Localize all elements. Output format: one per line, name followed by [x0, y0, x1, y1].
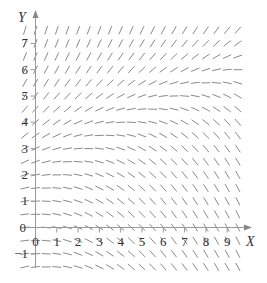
- slope-segment: [203, 132, 209, 138]
- slope-segment: [54, 79, 59, 86]
- slope-segment: [236, 250, 240, 258]
- slope-segment: [192, 120, 199, 125]
- slope-segment: [191, 95, 200, 97]
- slope-segment: [234, 94, 242, 99]
- slope-segment: [84, 135, 93, 136]
- slope-segment: [85, 107, 93, 112]
- slope-segment: [63, 187, 72, 189]
- slope-segment: [74, 200, 82, 203]
- slope-segment: [45, 39, 48, 47]
- slope-segment: [150, 250, 156, 257]
- slope-segment: [180, 96, 189, 97]
- slope-segment: [202, 54, 209, 59]
- slope-segment: [119, 39, 123, 47]
- slope-segment: [203, 171, 208, 178]
- slope-segment: [225, 210, 229, 218]
- slope-segment: [150, 237, 156, 244]
- slope-segment: [128, 185, 135, 191]
- slope-segment: [86, 66, 91, 73]
- slope-segment: [84, 174, 93, 177]
- slope-segment: [160, 146, 167, 151]
- slope-segment: [224, 132, 230, 139]
- slope-segment: [87, 39, 91, 47]
- slope-segment: [171, 211, 176, 218]
- slope-segment: [225, 158, 230, 166]
- slope-segment: [66, 26, 69, 34]
- slope-segment: [128, 211, 135, 217]
- slope-segment: [192, 54, 199, 60]
- slope-segment: [149, 81, 157, 85]
- slope-segment: [160, 53, 166, 60]
- slope-segment: [74, 161, 83, 162]
- slope-segment: [96, 93, 103, 98]
- slope-segment: [106, 238, 113, 243]
- slope-segment: [160, 250, 166, 257]
- slope-segment: [117, 211, 124, 217]
- slope-segment: [214, 210, 218, 218]
- slope-segment: [42, 214, 51, 215]
- slope-segment: [84, 161, 93, 163]
- slope-segment: [45, 26, 48, 35]
- slope-segment: [150, 211, 156, 218]
- slope-segment: [77, 26, 80, 34]
- slope-segment: [127, 147, 135, 151]
- slope-segment: [148, 95, 157, 97]
- slope-segment: [95, 148, 104, 149]
- y-tick-label: −1: [14, 246, 28, 261]
- slope-segment: [118, 53, 123, 61]
- slope-segment: [20, 214, 29, 215]
- slope-segment: [42, 174, 51, 175]
- slope-segment: [151, 26, 155, 34]
- slope-segment: [235, 132, 240, 139]
- slope-segment: [204, 250, 209, 258]
- slope-segment: [42, 240, 51, 241]
- slope-segment: [170, 120, 178, 124]
- slope-segment: [204, 210, 209, 218]
- slope-segment: [127, 134, 136, 136]
- slope-segment: [23, 52, 26, 60]
- slope-segment: [116, 108, 125, 110]
- slope-segment: [74, 266, 83, 269]
- slope-segment: [214, 263, 219, 271]
- slope-segment: [128, 172, 135, 177]
- slope-segment: [202, 95, 211, 98]
- slope-segment: [85, 199, 93, 203]
- slope-segment: [182, 263, 187, 270]
- slope-segment: [74, 187, 83, 190]
- x-axis-arrow-icon: [244, 225, 252, 231]
- slope-segment: [150, 198, 156, 205]
- slope-segment: [86, 79, 92, 86]
- slope-segment: [52, 147, 61, 150]
- slope-segment: [160, 159, 167, 165]
- y-tick-label: 2: [22, 167, 29, 182]
- y-axis-label: Y: [18, 10, 28, 25]
- slope-segment: [117, 198, 124, 204]
- slope-segment: [213, 40, 220, 46]
- slope-segment: [149, 146, 157, 151]
- slope-segment: [150, 185, 156, 191]
- slope-segment: [236, 237, 240, 245]
- slope-segment: [172, 26, 176, 34]
- slope-segment: [127, 159, 135, 164]
- slope-segment: [160, 172, 166, 178]
- slope-segment: [128, 80, 135, 85]
- slope-segment: [44, 52, 48, 60]
- slope-segment: [138, 134, 146, 137]
- slope-segment: [171, 40, 176, 47]
- slope-segment: [107, 80, 114, 86]
- slope-segment: [106, 94, 114, 99]
- slope-segment: [150, 53, 156, 60]
- slope-segment: [74, 120, 82, 124]
- slope-segment: [85, 265, 93, 268]
- slope-segment: [43, 120, 50, 126]
- slope-segment: [182, 198, 187, 205]
- slope-segment: [213, 107, 221, 112]
- slope-segment: [214, 171, 219, 179]
- slope-segment: [74, 134, 83, 136]
- slope-segment: [96, 80, 102, 87]
- slope-segment: [85, 252, 93, 256]
- slope-segment: [234, 106, 241, 112]
- slope-segment: [214, 197, 219, 205]
- slope-segment: [127, 94, 135, 98]
- slope-segment: [202, 120, 209, 126]
